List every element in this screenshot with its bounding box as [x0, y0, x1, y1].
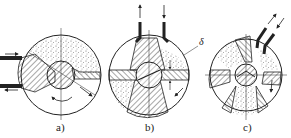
panel-c — [205, 14, 287, 120]
panel-a — [0, 28, 101, 120]
diagram-canvas — [0, 0, 291, 138]
panel-b-label: b) — [145, 121, 154, 133]
delta-annotation: δ — [199, 36, 204, 47]
panel-c-label: c) — [243, 121, 252, 133]
panel-b — [109, 5, 198, 118]
panel-a-label: a) — [56, 121, 65, 133]
